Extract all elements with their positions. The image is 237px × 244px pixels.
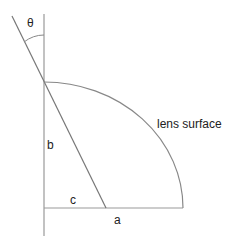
b-label: b (47, 138, 54, 152)
lens-surface-label: lens surface (157, 117, 222, 131)
a-label: a (114, 213, 121, 227)
theta-angle-arc (24, 35, 44, 42)
lens-surface-arc (44, 82, 183, 208)
c-label: c (70, 193, 76, 207)
diagonal-ray (12, 16, 106, 208)
theta-label: θ (27, 16, 34, 30)
lens-geometry-diagram: θ b c a lens surface (0, 0, 237, 244)
